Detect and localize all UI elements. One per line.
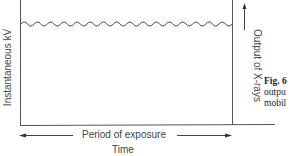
period-label: Period of exposure <box>82 129 166 140</box>
y-axis-label: Instantaneous kV <box>2 23 13 113</box>
figure-number: Fig. 6 <box>264 76 287 86</box>
kv-ripple-waveform <box>21 22 232 26</box>
figure-caption: Fig. 6 outpu mobil <box>264 76 287 109</box>
arrow-left-icon <box>19 134 26 138</box>
caption-line-1: outpu <box>264 87 286 97</box>
arrow-up-icon <box>243 3 247 9</box>
arrow-right-icon <box>225 134 232 138</box>
x-axis-label: Time <box>112 144 134 155</box>
caption-line-2: mobil <box>264 98 286 108</box>
right-axis-label: Output of X-rays <box>252 21 263 111</box>
x-axis <box>20 125 275 126</box>
